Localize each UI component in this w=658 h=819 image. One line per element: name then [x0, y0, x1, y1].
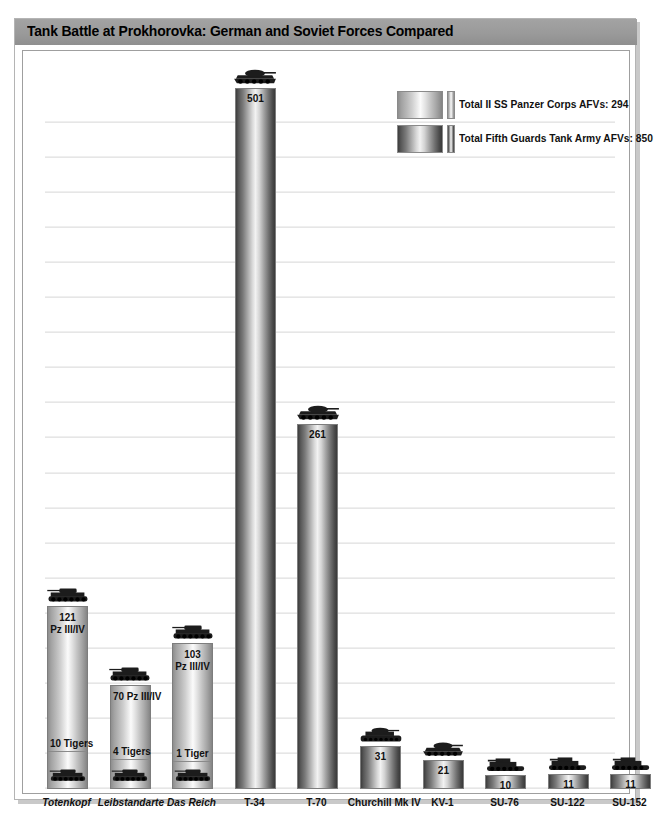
bar-leibstandarte[interactable]: 70 Pz III/IV4 Tigers [110, 685, 151, 789]
legend-item-german: Total II SS Panzer Corps AFVs: 294 [397, 89, 619, 123]
x-label-totenkopf: Totenkopf [35, 796, 98, 808]
bar-group[interactable]: 501 [235, 47, 276, 789]
tiger-tank-icon [111, 767, 149, 784]
tiger-tank-icon [174, 767, 212, 784]
bar-value-label: 261 [300, 428, 336, 440]
bar-value-label: 31 [363, 750, 399, 762]
bar-churchill-mk-iv[interactable]: 31 [360, 746, 401, 789]
x-label-das-reich: Das Reich [160, 796, 223, 808]
segment-label-medium-tanks: 121Pz III/IV [50, 611, 85, 635]
panzer-iii-iv-tank-icon [46, 586, 90, 605]
bar-group[interactable]: 103Pz III/IV1 Tiger [172, 47, 213, 789]
bar-group[interactable]: 121Pz III/IV10 Tigers [47, 47, 88, 789]
bar-group[interactable]: 31 [360, 47, 401, 789]
t70-tank-icon [295, 403, 341, 423]
soviet-gradient-swatch [397, 125, 443, 153]
bar-value-label: 11 [613, 778, 649, 790]
su152-assault-gun-icon [609, 754, 653, 773]
tiger-tank-icon [49, 767, 87, 784]
bar-value-label: 10 [488, 779, 524, 791]
bar-group[interactable]: 10 [485, 47, 526, 789]
german-gradient-swatch-cap [447, 91, 455, 119]
segment-divider [111, 759, 150, 760]
bar-group[interactable]: 11 [548, 47, 589, 789]
segment-label-tigers: 1 Tiger [175, 747, 210, 759]
x-label-su-122: SU-122 [536, 796, 599, 808]
bar-group[interactable]: 70 Pz III/IV4 Tigers [110, 47, 151, 789]
x-label-t-70: T-70 [285, 796, 348, 808]
x-label-t-34: T-34 [223, 796, 286, 808]
t34-tank-icon [232, 67, 278, 87]
su76-assault-gun-icon [484, 755, 528, 774]
kv1-tank-icon [421, 740, 465, 759]
bar-das-reich[interactable]: 103Pz III/IV1 Tiger [172, 643, 213, 789]
su122-assault-gun-icon [546, 754, 590, 773]
bar-totenkopf[interactable]: 121Pz III/IV10 Tigers [47, 606, 88, 789]
panzer-iii-iv-tank-icon [108, 665, 152, 684]
segment-divider [48, 751, 87, 752]
legend-item-soviet: Total Fifth Guards Tank Army AFVs: 850 [397, 123, 619, 157]
segment-divider [173, 761, 212, 762]
plot-frame: 121Pz III/IV10 Tigers70 Pz III/IV4 Tiger… [22, 50, 630, 794]
x-label-leibstandarte: Leibstandarte [97, 796, 160, 808]
bar-su-122[interactable]: 11 [548, 774, 589, 789]
bar-value-label: 501 [237, 92, 273, 104]
bar-value-label: 21 [425, 764, 461, 776]
bar-t-34[interactable]: 501 [235, 88, 276, 789]
bar-su-152[interactable]: 11 [610, 774, 651, 789]
page-title: Tank Battle at Prokhorovka: German and S… [27, 22, 453, 39]
churchill-tank-icon [359, 726, 403, 745]
title-bar: Tank Battle at Prokhorovka: German and S… [15, 19, 637, 45]
bar-t-70[interactable]: 261 [297, 424, 338, 789]
bar-group[interactable]: 21 [423, 47, 464, 789]
plot-area: 121Pz III/IV10 Tigers70 Pz III/IV4 Tiger… [23, 51, 629, 793]
chart-card: Tank Battle at Prokhorovka: German and S… [14, 18, 636, 800]
segment-label-tigers: 4 Tigers [113, 745, 148, 757]
x-axis-labels: TotenkopfLeibstandarteDas ReichT-34T-70C… [22, 796, 630, 818]
soviet-gradient-swatch-cap [447, 125, 455, 153]
x-label-su-152: SU-152 [598, 796, 658, 808]
segment-label-medium-tanks: 70 Pz III/IV [113, 690, 148, 702]
bar-kv-1[interactable]: 21 [423, 760, 464, 789]
bar-group[interactable]: 11 [610, 47, 651, 789]
bar-group[interactable]: 261 [297, 47, 338, 789]
x-label-kv-1: KV-1 [410, 796, 473, 808]
segment-label-tigers: 10 Tigers [50, 737, 85, 749]
panzer-iii-iv-tank-icon [171, 623, 215, 642]
legend-label-german: Total II SS Panzer Corps AFVs: 294 [459, 98, 628, 110]
bar-su-76[interactable]: 10 [485, 775, 526, 789]
x-label-su-76: SU-76 [473, 796, 536, 808]
bar-value-label: 11 [550, 778, 586, 790]
chart-legend: Total II SS Panzer Corps AFVs: 294 Total… [397, 89, 619, 157]
segment-label-medium-tanks: 103Pz III/IV [175, 648, 210, 672]
legend-label-soviet: Total Fifth Guards Tank Army AFVs: 850 [459, 132, 653, 144]
german-gradient-swatch [397, 91, 443, 119]
x-label-churchill-mk-iv: Churchill Mk IV [348, 796, 411, 808]
